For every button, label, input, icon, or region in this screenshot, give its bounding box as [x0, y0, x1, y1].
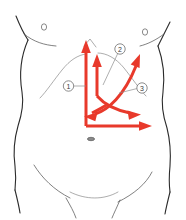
right-flank-line — [158, 46, 170, 192]
left-inguinal-crease — [34, 165, 70, 198]
left-groin-line — [66, 198, 76, 218]
left-costal-margin — [40, 54, 86, 98]
navel-icon — [87, 137, 94, 140]
right-nipple-icon — [142, 29, 147, 35]
arrow-lower-right-horizontal-head — [139, 121, 152, 131]
left-hip-line — [15, 190, 20, 213]
right-hip-line — [165, 192, 170, 214]
diagram-canvas: 1 2 3 — [0, 0, 186, 220]
right-inguinal-crease — [118, 172, 152, 202]
arrow-epigastric-up-short-head — [92, 54, 102, 67]
callout-3[interactable]: 3 — [137, 83, 147, 93]
arrow-diagonal-down-right-head — [128, 110, 142, 119]
callout-2-label: 2 — [118, 46, 122, 53]
arrow-curve-up-right-head — [131, 54, 140, 68]
left-flank-line — [14, 40, 28, 190]
callout-2-leader — [103, 54, 118, 85]
callout-2[interactable]: 2 — [115, 44, 125, 54]
arrow-epigastric-up-tall-head — [81, 40, 91, 53]
left-axilla-line — [16, 16, 28, 40]
left-nipple-icon — [41, 24, 46, 30]
callout-1[interactable]: 1 — [63, 81, 73, 91]
suprapubic-line — [70, 192, 118, 198]
left-pectoral-fold — [24, 34, 56, 46]
right-groin-line — [112, 200, 120, 218]
callout-3-label: 3 — [140, 85, 144, 92]
anatomical-pain-diagram: 1 2 3 — [0, 0, 186, 220]
callout-1-label: 1 — [67, 83, 71, 90]
